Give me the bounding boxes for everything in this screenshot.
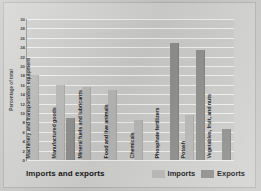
bar-imports	[30, 75, 39, 160]
gridline	[27, 160, 234, 161]
y-axis-title-label: Percentage of total	[8, 69, 13, 110]
category-label: Mineral fuels and lubricants	[77, 90, 82, 158]
legend-item-imports[interactable]: Imports	[152, 169, 196, 178]
category-label: Phosphate fertilizers	[155, 107, 160, 158]
imports-swatch-icon	[152, 170, 165, 178]
bar-imports	[82, 87, 91, 160]
chart-legend: Imports Exports	[152, 169, 245, 178]
figure-frame: Percentage of total 02468101214161820222…	[3, 2, 256, 188]
y-axis-tick-label: 24	[20, 45, 25, 50]
category-label: Manufactured goods	[51, 107, 56, 158]
bar-imports	[56, 85, 65, 160]
bar-imports	[185, 115, 194, 160]
legend-label-imports: Imports	[168, 169, 196, 178]
bar-exports	[170, 43, 179, 161]
category-label: Potash	[181, 141, 186, 158]
legend-label-exports: Exports	[217, 169, 245, 178]
bar-exports	[66, 118, 75, 160]
exports-swatch-icon	[201, 170, 214, 178]
category-label: Chemicals	[129, 132, 134, 158]
legend-item-exports[interactable]: Exports	[201, 169, 245, 178]
bar-exports	[196, 50, 205, 160]
chart-caption: Imports and exports	[26, 169, 104, 178]
y-axis-title: Percentage of total	[6, 19, 15, 161]
category-label: Vegetables, fruit, and nuts	[207, 94, 212, 158]
y-axis-tick-label: 30	[20, 17, 25, 22]
y-axis-tick-label: 26	[20, 35, 25, 40]
bar-exports	[222, 129, 231, 160]
category-label: Food and live animals	[103, 104, 108, 158]
screenshot-root: Percentage of total 02468101214161820222…	[0, 0, 261, 191]
plot-area: 024681012141618202224262830 Machinery an…	[26, 19, 234, 161]
category-label: Machinery and transportation equipment	[26, 58, 31, 158]
y-axis-tick-label: 28	[20, 26, 25, 31]
